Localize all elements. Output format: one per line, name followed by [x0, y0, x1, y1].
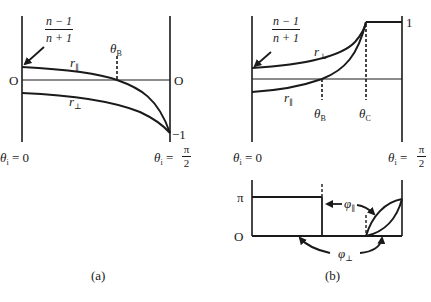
subscript: B: [320, 114, 325, 123]
phi-parallel-arrow-right: [357, 205, 374, 214]
subscript: ∥: [351, 204, 355, 213]
panel-b-r-parallel-curve: [252, 22, 366, 92]
panel-b-arrow: [255, 52, 271, 66]
panel-a-x-start: θi = 0: [0, 151, 29, 167]
panel-b-caption: (b): [325, 268, 340, 284]
panel-a-fraction-num: n − 1: [45, 15, 73, 27]
denominator: 2: [184, 158, 190, 169]
numerator: π: [419, 144, 425, 155]
panel-a-r-parallel-label: r∥: [70, 56, 79, 72]
panel-a-theta-b-label: θB: [110, 42, 122, 58]
panel-b-fraction-den: n + 1: [272, 32, 300, 44]
subscript: ⊥: [319, 52, 327, 61]
panel-a-fraction-den: n + 1: [45, 32, 73, 44]
equals: =: [166, 150, 173, 165]
equals: =: [400, 150, 407, 165]
phi-perp-arrow-right: [360, 238, 382, 253]
panel-b-x-end: θi =: [388, 151, 407, 167]
panel-a-arrow: [25, 47, 44, 64]
phase-zero-label: O: [234, 230, 243, 243]
figure-canvas: [0, 0, 431, 302]
panel-a-zero-right: O: [174, 74, 183, 87]
phase-phi-parallel-curve: [366, 199, 402, 236]
panel-b-pi-over-2: π 2: [417, 144, 426, 169]
panel-b-fraction-label: n − 1 n + 1: [272, 15, 300, 44]
subscript: i: [160, 158, 162, 167]
panel-b-fraction-num: n − 1: [272, 15, 300, 27]
value: = 0: [12, 150, 29, 165]
panel-a-fraction-label: n − 1 n + 1: [45, 15, 73, 44]
subscript: ⊥: [345, 254, 353, 263]
panel-a-r-perp-label: r⊥: [69, 95, 82, 111]
panel-b-one-label: 1: [406, 16, 413, 29]
subscript: i: [239, 158, 241, 167]
phi-perp-label: φ⊥: [338, 247, 353, 263]
subscript: ∥: [289, 98, 293, 107]
panel-a-zero-left: O: [9, 74, 18, 87]
panel-b-theta-b-label: θB: [314, 107, 326, 123]
denominator: 2: [419, 158, 425, 169]
panel-a-x-end: θi =: [154, 151, 173, 167]
panel-a-minus-one: −1: [172, 128, 186, 141]
phi-perp-arrow-left: [300, 238, 330, 253]
subscript: B: [116, 49, 121, 58]
panel-a-r-perp-curve: [22, 93, 170, 133]
numerator: π: [184, 144, 190, 155]
subscript: C: [365, 114, 370, 123]
phase-pi-label: π: [237, 191, 244, 204]
panel-b-theta-c-label: θC: [359, 107, 371, 123]
panel-b-r-perp-label: r⊥: [314, 45, 327, 61]
subscript: i: [394, 158, 396, 167]
phi-parallel-label: φ∥: [344, 197, 355, 213]
fraction-bar: [45, 29, 73, 30]
value: = 0: [245, 150, 262, 165]
subscript: ∥: [75, 63, 79, 72]
panel-b-r-parallel-label: r∥: [284, 91, 293, 107]
panel-a-pi-over-2: π 2: [182, 144, 191, 169]
fraction-bar: [272, 29, 300, 30]
panel-b-phase-plot: [252, 180, 402, 253]
subscript: ⊥: [74, 102, 82, 111]
phase-phi-perp-curve: [366, 199, 402, 236]
panel-a-caption: (a): [91, 268, 105, 284]
panel-b-x-start: θi = 0: [233, 151, 262, 167]
subscript: i: [6, 158, 8, 167]
